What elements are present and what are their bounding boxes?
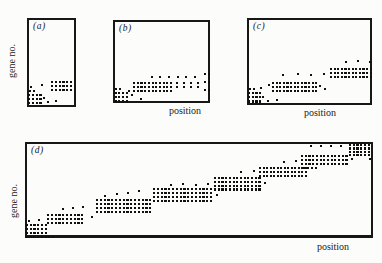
data-dot: [273, 167, 275, 169]
data-dot: [320, 155, 322, 157]
data-dot: [45, 236, 47, 238]
data-dot: [159, 86, 161, 88]
data-dot: [352, 68, 354, 70]
data-dot: [259, 175, 261, 177]
data-dot: [77, 222, 79, 224]
data-dot: [126, 199, 128, 201]
data-dot: [221, 177, 223, 179]
data-dot: [337, 72, 339, 74]
data-dot: [290, 86, 292, 88]
data-dot: [284, 167, 286, 169]
data-dot: [118, 100, 120, 102]
data-dot: [176, 188, 178, 190]
data-dot: [301, 86, 303, 88]
data-dot: [104, 195, 106, 197]
data-dot: [145, 203, 147, 205]
data-dot: [277, 171, 279, 173]
data-dot: [47, 214, 49, 216]
data-dot: [144, 82, 146, 84]
data-dot: [137, 90, 139, 92]
data-dot: [357, 60, 359, 62]
data-dot: [138, 190, 140, 192]
data-dot: [291, 175, 293, 177]
data-dot: [310, 74, 312, 76]
data-dot: [225, 181, 227, 183]
data-dot: [144, 86, 146, 88]
data-dot: [119, 203, 121, 205]
data-dot: [183, 200, 185, 202]
data-dot: [155, 90, 157, 92]
data-dot: [364, 154, 366, 156]
data-dot: [66, 81, 68, 83]
data-dot: [214, 188, 216, 190]
data-dot: [36, 102, 38, 104]
data-dot: [140, 82, 142, 84]
data-dot: [104, 199, 106, 201]
data-dot: [218, 185, 220, 187]
data-dot: [244, 177, 246, 179]
data-dot: [183, 192, 185, 194]
data-dot: [210, 196, 212, 198]
panel-a-label: (a): [33, 21, 46, 31]
data-dot: [180, 196, 182, 198]
data-dot: [152, 86, 154, 88]
data-dot: [51, 89, 53, 91]
data-dot: [216, 194, 218, 196]
data-dot: [240, 171, 242, 173]
data-dot: [312, 159, 314, 161]
data-dot: [298, 175, 300, 177]
data-dot: [331, 155, 333, 157]
data-dot: [360, 154, 362, 156]
data-dot: [294, 86, 296, 88]
data-dot: [122, 96, 124, 98]
data-dot: [208, 73, 210, 75]
data-dot: [157, 200, 159, 202]
data-dot: [55, 89, 57, 91]
data-dot: [195, 196, 197, 198]
data-dot: [315, 90, 317, 92]
data-dot: [331, 163, 333, 165]
data-dot: [148, 82, 150, 84]
data-dot: [338, 159, 340, 161]
data-dot: [107, 211, 109, 213]
data-dot: [142, 199, 144, 201]
data-dot: [218, 188, 220, 190]
data-dot: [144, 90, 146, 92]
data-dot: [295, 160, 297, 162]
data-dot: [305, 155, 307, 157]
data-dot: [255, 185, 257, 187]
data-dot: [126, 100, 128, 102]
data-dot: [62, 85, 64, 87]
data-dot: [263, 167, 265, 169]
data-dot: [311, 167, 313, 169]
data-dot: [255, 92, 257, 94]
data-dot: [323, 163, 325, 165]
data-dot: [247, 181, 249, 183]
data-dot: [182, 183, 184, 185]
data-dot: [294, 82, 296, 84]
data-dot: [315, 167, 317, 169]
data-dot: [351, 158, 353, 160]
data-dot: [344, 68, 346, 70]
data-dot: [221, 181, 223, 183]
data-dot: [297, 82, 299, 84]
data-dot: [327, 155, 329, 157]
data-dot: [356, 144, 358, 146]
data-dot: [344, 76, 346, 78]
data-dot: [51, 214, 53, 216]
data-dot: [277, 167, 279, 169]
panel-c-dot-layer: [247, 18, 368, 101]
data-dot: [115, 211, 117, 213]
data-dot: [290, 82, 292, 84]
data-dot: [308, 82, 310, 84]
data-dot: [283, 90, 285, 92]
data-dot: [62, 208, 64, 210]
data-dot: [348, 76, 350, 78]
data-dot: [303, 167, 305, 169]
data-dot: [81, 218, 83, 220]
data-dot: [55, 222, 57, 224]
data-dot: [145, 207, 147, 209]
data-dot: [118, 96, 120, 98]
data-dot: [279, 86, 281, 88]
data-dot: [33, 236, 35, 238]
